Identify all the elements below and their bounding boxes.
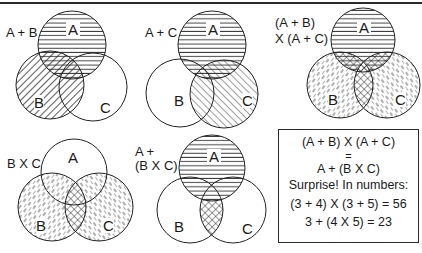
circle-label-a: A xyxy=(206,22,220,37)
summary-box: (A + B) X (A + C) = A + (B X C) Surprise… xyxy=(278,129,419,243)
panel-label-b-times-c: B X C xyxy=(7,157,41,171)
circle-label-b: B xyxy=(174,219,184,234)
circle-label-a: A xyxy=(66,22,80,37)
circle-label-a: A xyxy=(357,20,371,35)
circle-label-b: B xyxy=(34,95,44,110)
numeric-example-left: (3 + 4) X (3 + 5) = 56 xyxy=(279,196,418,213)
circle-label-b: B xyxy=(328,92,338,107)
equals-sign: = xyxy=(279,151,418,161)
identity-right: A + (B X C) xyxy=(279,161,418,178)
circle-label-b: B xyxy=(36,218,46,233)
circle-label-a: A xyxy=(207,149,221,164)
panel-label-ac-line2: X (A + C) xyxy=(275,32,328,46)
panel-label-ab-line1: (A + B) xyxy=(275,16,315,30)
circle-label-c: C xyxy=(242,221,253,236)
circle-label-c: C xyxy=(242,93,253,108)
panel-label-a-plus-b: A + B xyxy=(6,26,37,40)
circle-label-c: C xyxy=(100,100,111,115)
circle-label-c: C xyxy=(103,218,114,233)
circle-label-c: C xyxy=(395,92,406,107)
panel-label-a-plus: A + xyxy=(135,145,154,159)
identity-left: (A + B) X (A + C) xyxy=(279,134,418,151)
surprise-text: Surprise! In numbers: xyxy=(279,177,418,194)
numeric-example-right: 3 + (4 X 5) = 23 xyxy=(279,214,418,231)
panel-label-a-plus-c: A + C xyxy=(145,26,177,40)
circle-label-a: A xyxy=(68,150,78,165)
panel-label-b-times-c: (B X C) xyxy=(135,159,178,173)
circle-label-b: B xyxy=(174,93,184,108)
